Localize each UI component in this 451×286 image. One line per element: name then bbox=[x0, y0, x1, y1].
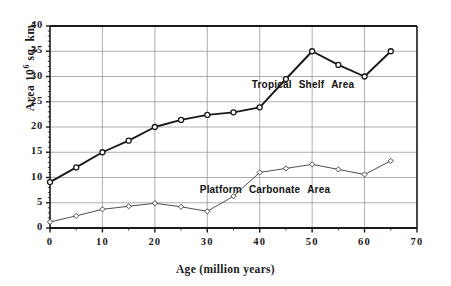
series-1 bbox=[48, 49, 394, 185]
y-tick-label: 10 bbox=[17, 171, 43, 182]
x-tick-label: 50 bbox=[297, 236, 327, 247]
data-point-marker bbox=[100, 207, 105, 212]
y-tick-label: 35 bbox=[17, 44, 43, 55]
tick-marks bbox=[46, 26, 417, 233]
x-tick-label: 0 bbox=[35, 236, 65, 247]
chart-figure: Area 106 sq. km. Age (million years) 051… bbox=[0, 0, 451, 286]
series-annotation-2: PlatformCarbonateArea bbox=[200, 184, 330, 195]
data-point-marker bbox=[152, 201, 157, 206]
x-tick-label: 40 bbox=[245, 236, 275, 247]
y-tick-label: 20 bbox=[17, 120, 43, 131]
data-point-marker bbox=[48, 180, 53, 185]
data-point-marker bbox=[126, 204, 131, 209]
data-point-marker bbox=[310, 49, 315, 54]
data-point-marker bbox=[152, 125, 157, 130]
data-point-marker bbox=[388, 158, 393, 163]
y-tick-label: 30 bbox=[17, 70, 43, 81]
series-annotation-1: TropicalShelfArea bbox=[252, 79, 354, 90]
y-tick-label: 25 bbox=[17, 95, 43, 106]
data-point-marker bbox=[257, 105, 262, 110]
y-tick-label: 0 bbox=[17, 221, 43, 232]
plot-area bbox=[0, 0, 451, 286]
x-tick-label: 30 bbox=[192, 236, 222, 247]
x-tick-label: 60 bbox=[350, 236, 380, 247]
x-tick-label: 20 bbox=[140, 236, 170, 247]
data-point-marker bbox=[178, 204, 183, 209]
data-point-marker bbox=[74, 165, 79, 170]
data-point-marker bbox=[336, 62, 341, 67]
data-point-marker bbox=[74, 213, 79, 218]
x-axis-title: Age (million years) bbox=[0, 263, 451, 275]
data-point-marker bbox=[179, 117, 184, 122]
y-axis-title-exponent: 6 bbox=[22, 64, 31, 69]
data-point-marker bbox=[362, 172, 367, 177]
data-point-marker bbox=[310, 162, 315, 167]
data-point-marker bbox=[231, 110, 236, 115]
data-point-marker bbox=[283, 166, 288, 171]
data-point-marker bbox=[205, 112, 210, 117]
data-point-marker bbox=[126, 138, 131, 143]
y-tick-label: 40 bbox=[17, 19, 43, 30]
data-point-marker bbox=[362, 74, 367, 79]
y-tick-label: 15 bbox=[17, 145, 43, 156]
x-tick-label: 10 bbox=[87, 236, 117, 247]
data-point-marker bbox=[47, 219, 52, 224]
series-line bbox=[50, 51, 391, 182]
data-point-marker bbox=[336, 167, 341, 172]
x-tick-label: 70 bbox=[402, 236, 432, 247]
data-point-marker bbox=[100, 150, 105, 155]
data-point-marker bbox=[205, 209, 210, 214]
data-point-marker bbox=[388, 49, 393, 54]
y-tick-label: 5 bbox=[17, 196, 43, 207]
